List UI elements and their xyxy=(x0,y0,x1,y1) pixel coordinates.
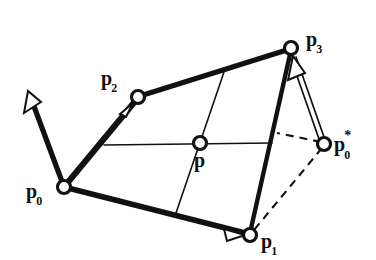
label-p0-star-subscript: 0 xyxy=(344,148,350,162)
label-p3-subscript: 3 xyxy=(316,42,322,56)
label-p0: p0 xyxy=(26,181,43,204)
edge-p3-p1 xyxy=(250,50,291,233)
label-p2-subscript: 2 xyxy=(111,81,117,95)
node-p0-star[interactable] xyxy=(318,138,331,151)
label-p3: p3 xyxy=(306,29,323,52)
thick-edges-group xyxy=(32,49,291,234)
edge-p2-p3 xyxy=(140,49,290,96)
label-p0-star-superscript: * xyxy=(344,128,351,143)
edge-p0-p1 xyxy=(64,187,249,234)
label-p1-subscript: 1 xyxy=(271,244,277,258)
node-p0[interactable] xyxy=(58,181,71,194)
figure-canvas: p0 p1 p2 p3 p p0* xyxy=(0,0,376,260)
node-p3[interactable] xyxy=(285,42,298,55)
label-p0-subscript: 0 xyxy=(36,194,42,208)
label-p0-star: p0* xyxy=(334,134,358,158)
dashed-lines-group xyxy=(254,133,322,230)
thin-grid-group xyxy=(104,72,272,213)
label-p1: p1 xyxy=(261,231,278,254)
label-p: p xyxy=(194,150,205,170)
node-p1[interactable] xyxy=(244,229,257,242)
node-p[interactable] xyxy=(194,137,207,150)
node-p2[interactable] xyxy=(132,91,145,104)
dashed-p0s-upper xyxy=(277,133,321,142)
grid-horizontal xyxy=(104,143,272,145)
label-p2: p2 xyxy=(101,68,118,91)
label-p-base: p xyxy=(194,149,205,171)
edge-p0-tangent xyxy=(32,101,64,187)
